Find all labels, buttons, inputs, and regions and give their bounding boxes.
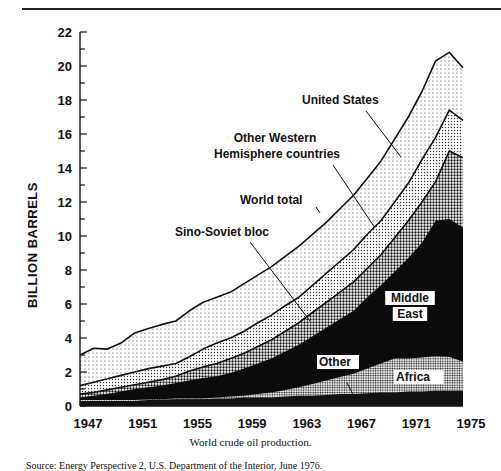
- y-tick-label: 18: [58, 93, 72, 108]
- label-other-western-1: Other Western: [234, 131, 316, 145]
- x-tick-label: 1963: [292, 416, 321, 431]
- x-tick-label: 1975: [457, 416, 486, 431]
- label-middle-east-1: Middle: [391, 291, 429, 305]
- y-tick-label: 12: [58, 195, 72, 210]
- stacked-area-layers: [80, 52, 463, 406]
- label-sino-soviet: Sino-Soviet bloc: [175, 225, 269, 239]
- y-tick-label: 22: [58, 25, 72, 40]
- x-tick-label: 1967: [347, 416, 376, 431]
- y-tick-label: 20: [58, 59, 72, 74]
- label-middle-east-2: East: [397, 307, 422, 321]
- x-tick-label: 1959: [238, 416, 267, 431]
- pointer-world-total: [316, 207, 320, 213]
- x-tick-label: 1971: [402, 416, 431, 431]
- pointer-united-states: [366, 111, 401, 157]
- y-tick-label: 8: [65, 263, 72, 278]
- x-tick-label: 1951: [128, 416, 157, 431]
- y-tick-label: 0: [65, 399, 72, 414]
- label-africa: Africa: [396, 370, 430, 384]
- x-tick-label: 1955: [183, 416, 212, 431]
- y-tick-label: 16: [58, 127, 72, 142]
- x-tick-label: 1947: [74, 416, 103, 431]
- label-world-total: World total: [240, 193, 302, 207]
- y-tick-label: 2: [65, 365, 72, 380]
- y-tick-label: 4: [65, 331, 73, 346]
- label-other: Other: [319, 355, 351, 369]
- label-other-western-2: Hemisphere countries: [214, 147, 340, 161]
- y-axis-label: BILLION BARRELS: [25, 182, 40, 308]
- source-note: Source: Energy Perspective 2, U.S. Depar…: [26, 460, 322, 471]
- figure-caption: World crude oil production.: [0, 436, 501, 448]
- y-tick-label: 6: [65, 297, 72, 312]
- y-tick-label: 14: [58, 161, 73, 176]
- y-tick-label: 10: [58, 229, 72, 244]
- label-united-states: United States: [302, 93, 379, 107]
